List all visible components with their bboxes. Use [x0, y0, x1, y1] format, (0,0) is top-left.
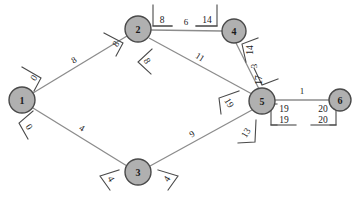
stacked-label-6-top: 20 [318, 104, 328, 114]
edges-layer [33, 30, 329, 166]
node-3-label: 3 [136, 167, 141, 178]
edge-weight-1-2: 8 [69, 54, 78, 65]
stacked-label-6-bottom: 20 [318, 115, 328, 125]
stacked-label-5-top: 19 [279, 104, 289, 114]
distance-label-5-a: 17 [254, 75, 264, 85]
distance-label-3-b: 4 [162, 174, 173, 184]
node-1-label: 1 [20, 95, 25, 106]
node-4[interactable]: 4 [222, 19, 246, 43]
distance-label-4-b: 14 [245, 45, 255, 55]
node-4-label: 4 [232, 26, 237, 37]
node-2-label: 2 [136, 24, 141, 35]
distance-label-3-a: 4 [106, 174, 117, 184]
graph-diagram: 8 4 6 11 9 3 1 0 0 8 8 8 14 14 17 19 13 … [0, 0, 356, 198]
edge-3-5 [150, 110, 252, 166]
edge-weight-1-3: 4 [77, 123, 86, 134]
edge-weight-2-4: 6 [184, 17, 189, 27]
distance-label-5-c: 13 [239, 126, 253, 140]
edge-2-5 [149, 38, 252, 94]
node-2[interactable]: 2 [125, 16, 151, 42]
distance-label-1-b: 0 [24, 122, 35, 132]
node-3[interactable]: 3 [125, 159, 151, 185]
edge-weight-5-6: 1 [300, 86, 305, 96]
node-5-label: 5 [260, 96, 265, 107]
distance-label-2-c: 8 [160, 15, 165, 25]
distance-label-5-b: 19 [222, 96, 236, 110]
node-1[interactable]: 1 [9, 87, 35, 113]
node-6-label: 6 [338, 95, 343, 106]
edge-weight-4-5: 3 [249, 63, 259, 68]
edge-2-4 [151, 30, 222, 31]
distance-label-4-a: 14 [202, 15, 212, 25]
graph-canvas: 8 4 6 11 9 3 1 0 0 8 8 8 14 14 17 19 13 … [0, 0, 356, 198]
stacked-label-5-bottom: 19 [279, 115, 289, 125]
stacked-labels-layer: 19 19 20 20 [279, 104, 328, 125]
node-5[interactable]: 5 [249, 88, 275, 114]
edge-1-3 [33, 108, 127, 166]
edge-weight-2-5: 11 [194, 50, 207, 63]
node-6[interactable]: 6 [329, 89, 351, 111]
edge-weights-layer: 8 4 6 11 9 3 1 [69, 17, 304, 139]
edge-weight-3-5: 9 [187, 128, 197, 139]
